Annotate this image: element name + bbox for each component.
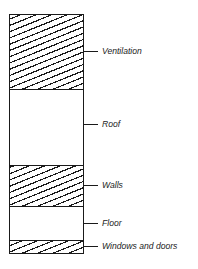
label-floor: Floor: [102, 218, 122, 228]
segment-walls: [9, 165, 84, 207]
label-windows-and-doors: Windows and doors: [102, 241, 177, 251]
label-roof: Roof: [102, 119, 120, 129]
leader-tick-walls: [84, 185, 98, 186]
leader-tick-floor: [84, 223, 98, 224]
segment-windows-and-doors: [9, 240, 84, 254]
leader-tick-windows: [84, 246, 98, 247]
leader-tick-roof: [84, 124, 98, 125]
segment-roof: [9, 89, 84, 166]
segment-floor: [9, 206, 84, 241]
label-ventilation: Ventilation: [102, 46, 142, 56]
label-walls: Walls: [102, 180, 123, 190]
leader-tick-ventilation: [84, 51, 98, 52]
segment-ventilation: [9, 14, 84, 90]
